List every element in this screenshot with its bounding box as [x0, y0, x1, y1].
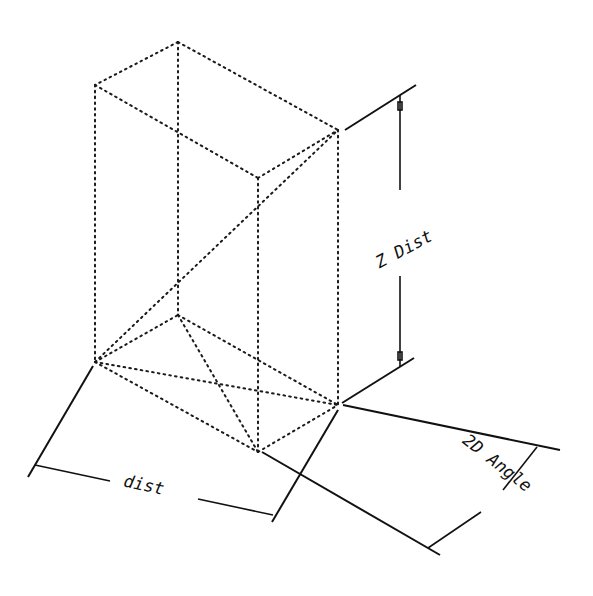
- box-edge-top-back-right: [178, 42, 338, 130]
- angle-dimension-arc-lower: [428, 512, 481, 548]
- space-diagonal: [95, 130, 338, 362]
- dist-extension-right: [272, 410, 338, 522]
- angle-projected-line: [262, 452, 440, 555]
- z-dist-extension-bottom: [342, 358, 414, 403]
- box-edge-top-front-left: [95, 85, 258, 178]
- z-dist-dimension: Z Dist: [342, 85, 436, 403]
- diagram-canvas: Z Dist dist 2D Angle: [0, 0, 593, 596]
- dist-dimension: dist: [28, 366, 338, 522]
- box-edge-top-back-left: [95, 42, 178, 85]
- angle-reference-line: [343, 405, 560, 450]
- dist-label: dist: [122, 471, 166, 499]
- angle-2d-dimension: 2D Angle: [262, 405, 560, 555]
- dist-dimension-line-right: [198, 499, 273, 515]
- dist-extension-left: [28, 366, 93, 477]
- wireframe-box: [95, 42, 338, 452]
- bottom-diagonal-2: [178, 315, 258, 452]
- z-dist-label: Z Dist: [371, 226, 436, 273]
- dist-dimension-line-left: [35, 465, 110, 481]
- z-dist-extension-top: [345, 85, 416, 130]
- box-edge-top-front-right: [258, 130, 338, 178]
